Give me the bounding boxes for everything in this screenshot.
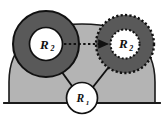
figure-canvas: R 2 R 2 R 1	[0, 0, 164, 121]
r2-start-label-subscript: 2	[49, 44, 54, 53]
r1-label: R	[76, 92, 85, 104]
diagram-svg: R 2 R 2 R 1	[0, 0, 164, 121]
node-r1[interactable]: R 1	[67, 83, 98, 114]
r2-target-label-subscript: 2	[128, 44, 133, 53]
r2-start-label: R	[39, 37, 49, 52]
r2-target-label: R	[118, 36, 128, 51]
r1-label-subscript: 1	[86, 99, 90, 107]
